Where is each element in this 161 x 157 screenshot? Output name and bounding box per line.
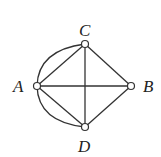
node-c [82,41,89,48]
edge-d-b [85,86,131,127]
node-a [34,83,41,90]
edges [37,44,131,127]
label-b: B [143,77,154,96]
label-a: A [12,77,24,96]
node-b [128,83,135,90]
label-c: C [79,21,91,40]
node-d [82,124,89,131]
graph-diagram: C A B D [0,0,161,157]
label-d: D [77,137,91,156]
edge-c-b [85,44,131,86]
